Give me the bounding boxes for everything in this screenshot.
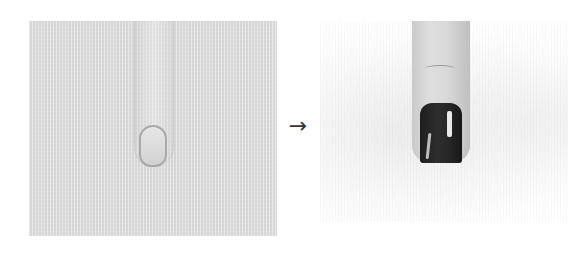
polished-nail	[420, 103, 462, 163]
unpolished-nail	[139, 125, 167, 167]
nail-highlight	[447, 111, 452, 137]
after-image	[320, 21, 568, 221]
knuckle-crease	[425, 65, 455, 72]
arrow-right-icon: →	[283, 114, 313, 138]
nail-highlight-secondary	[426, 133, 432, 159]
before-image	[29, 21, 277, 236]
